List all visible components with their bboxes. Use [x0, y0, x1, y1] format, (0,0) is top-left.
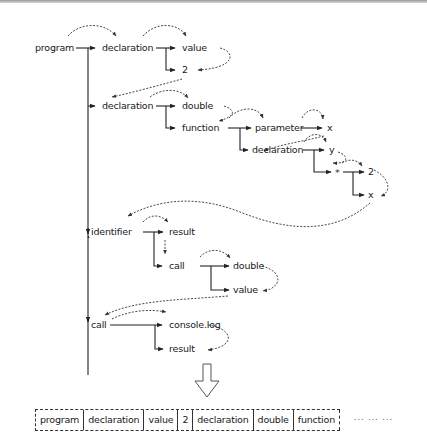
sequence-cell: declaration [84, 410, 144, 430]
traversal-arrows [68, 26, 388, 351]
node-declaration: declaration [102, 42, 153, 53]
sequence-cell: double [254, 410, 294, 430]
node-x: x [327, 122, 332, 133]
node-x: x [368, 189, 373, 200]
node-double: double [233, 260, 264, 271]
down-arrow-icon [195, 364, 219, 397]
sequence-cell: value [144, 410, 178, 430]
sequence-cell: 2 [178, 410, 193, 430]
node-value: value [182, 42, 207, 53]
sequence-ellipsis: ... ... ... [354, 413, 393, 422]
node-double: double [182, 100, 213, 111]
ast-diagram [0, 0, 427, 445]
node-identifier: identifier [91, 226, 132, 237]
node-value: value [233, 284, 258, 295]
node-program: program [35, 42, 74, 53]
node-call: call [91, 319, 107, 330]
node-result: result [169, 343, 195, 354]
node-console-log: console.log [169, 319, 221, 330]
sequence-cell: declaration [193, 410, 253, 430]
node-function: function [182, 122, 219, 133]
flattened-sequence: program declaration value 2 declaration … [35, 409, 340, 431]
node-parameter: parameter [255, 122, 303, 133]
node-2: 2 [368, 166, 374, 177]
node-star: * [335, 167, 340, 178]
node-call: call [169, 260, 185, 271]
node-result: result [169, 226, 195, 237]
node-declaration: declaration [252, 144, 303, 155]
node-2: 2 [182, 64, 188, 75]
sequence-cell: function [294, 410, 340, 430]
node-declaration: declaration [102, 100, 153, 111]
sequence-cell: program [36, 410, 84, 430]
node-y: y [329, 144, 334, 155]
